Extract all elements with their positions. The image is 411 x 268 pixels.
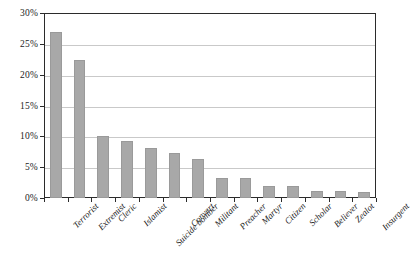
- bar: [169, 153, 181, 198]
- bar-slot: [240, 13, 252, 198]
- y-tick-label: 10%: [20, 131, 38, 141]
- bar-slot: [192, 13, 204, 198]
- bar: [192, 159, 204, 198]
- bars-layer: [44, 13, 376, 198]
- bar-slot: [169, 13, 181, 198]
- bar: [50, 32, 62, 198]
- bar-slot: [335, 13, 347, 198]
- bar: [145, 148, 157, 198]
- x-axis-label: Scholar: [307, 201, 334, 228]
- bar: [263, 186, 275, 198]
- bar: [240, 178, 252, 198]
- bar-slot: [311, 13, 323, 198]
- bar: [74, 60, 86, 198]
- bar: [287, 186, 299, 198]
- y-tick-label: 30%: [20, 8, 38, 18]
- bar: [335, 191, 347, 198]
- bar-slot: [287, 13, 299, 198]
- y-tick-label: 15%: [20, 101, 38, 111]
- bar: [121, 141, 133, 198]
- y-axis: 0%5%10%15%20%25%30%: [0, 0, 44, 198]
- y-tick-label: 20%: [20, 70, 38, 80]
- bar-slot: [216, 13, 228, 198]
- y-tick-label: 25%: [20, 39, 38, 49]
- bar: [97, 136, 109, 198]
- bar: [311, 191, 323, 198]
- bar-slot: [358, 13, 370, 198]
- bar-slot: [97, 13, 109, 198]
- x-axis-label: Citizen: [283, 201, 308, 226]
- bar-slot: [121, 13, 133, 198]
- bar-slot: [74, 13, 86, 198]
- x-axis-label: Insurgent: [380, 201, 411, 232]
- bar-slot: [50, 13, 62, 198]
- bar-slot: [263, 13, 275, 198]
- y-tick-label: 5%: [25, 162, 38, 172]
- x-axis-label: Islamist: [141, 201, 168, 228]
- x-axis-labels: TerroristExtremistClericIslamistSuicide …: [0, 198, 392, 268]
- bar: [216, 178, 228, 198]
- bar-slot: [145, 13, 157, 198]
